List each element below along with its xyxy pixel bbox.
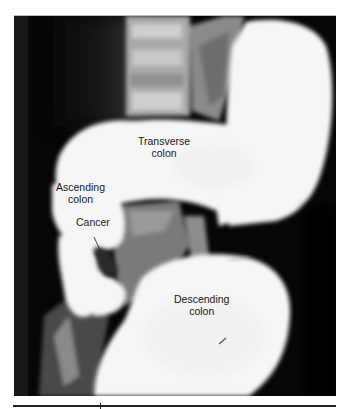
label-descending-colon: Descending colon bbox=[174, 293, 229, 317]
label-line: Transverse bbox=[138, 135, 190, 147]
label-transverse-colon: Transverse colon bbox=[138, 135, 190, 159]
label-line: Cancer bbox=[76, 216, 110, 228]
label-line: colon bbox=[56, 193, 105, 205]
xray-figure: Transverse colon Ascending colon Cancer … bbox=[14, 16, 336, 396]
label-ascending-colon: Ascending colon bbox=[56, 181, 105, 205]
caption-rule-tick bbox=[100, 403, 101, 409]
label-line: colon bbox=[138, 147, 190, 159]
caption-rule bbox=[13, 405, 336, 407]
label-line: Descending bbox=[174, 293, 229, 305]
label-line: Ascending bbox=[56, 181, 105, 193]
label-cancer: Cancer bbox=[76, 216, 110, 228]
xray-image bbox=[14, 16, 336, 396]
label-line: colon bbox=[174, 305, 229, 317]
